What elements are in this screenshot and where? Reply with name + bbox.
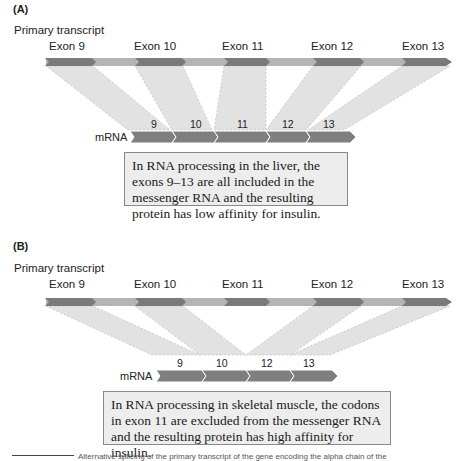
panel-b-projections (46, 306, 450, 355)
panel-b-mrna-exon-9: 9 (177, 357, 183, 369)
panel-b-exon-13-label: Exon 13 (402, 278, 444, 290)
panel-b-exon-10-label: Exon 10 (134, 278, 176, 290)
panel-a-mrna-exon-10: 10 (190, 118, 202, 130)
panel-a-mrna-exon-11: 11 (237, 118, 248, 130)
figure-caption: Alternative splicing of the primary tran… (78, 452, 387, 461)
panel-b-exon-12-label: Exon 12 (311, 278, 353, 290)
panel-b-mrna-exon-10: 10 (216, 357, 228, 369)
panel-a-mrna-exon-9: 9 (151, 118, 157, 130)
panel-b-primary-transcript-label: Primary transcript (14, 262, 104, 274)
panel-b-label: (B) (13, 240, 28, 252)
panel-a-note: In RNA processing in the liver, the exon… (124, 152, 348, 206)
panel-a-mrna-exon-13: 13 (323, 118, 335, 130)
panel-b-exon-9-label: Exon 9 (49, 278, 85, 290)
panel-b-exon-11-label: Exon 11 (222, 278, 263, 290)
panel-b-mrna-exon-13: 13 (303, 357, 315, 369)
panel-a-projections (46, 66, 450, 130)
panel-a-mrna (130, 131, 356, 143)
panel-b-mrna-label: mRNA (120, 370, 152, 382)
panel-a-mrna-label: mRNA (95, 131, 127, 143)
panel-b-mrna (156, 370, 338, 382)
panel-b-note: In RNA processing in skeletal muscle, th… (103, 391, 391, 445)
panel-a-mrna-exon-12: 12 (282, 118, 294, 130)
caption-rule (12, 455, 74, 456)
panel-b-mrna-exon-12: 12 (261, 357, 273, 369)
